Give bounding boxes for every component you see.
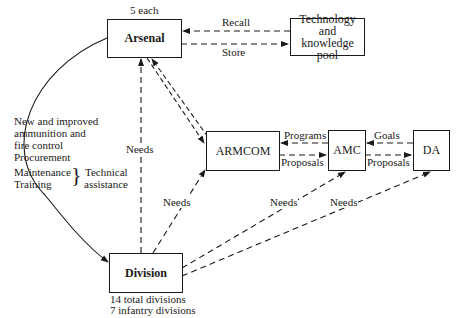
- da-label: DA: [423, 143, 440, 158]
- arsenal-count-note: 5 each: [130, 4, 158, 16]
- edge-needs-division-armcom: [153, 170, 205, 253]
- tech-pool-node[interactable]: Technology and knowledge pool: [290, 18, 365, 56]
- edge-label-needs-amc: Needs: [270, 196, 298, 208]
- edge-armcom-to-arsenal: [152, 59, 208, 137]
- edge-label-programs: Programs: [284, 129, 326, 141]
- edge-label-recall: Recall: [222, 16, 250, 28]
- edge-label-needs-da: Needs: [330, 196, 358, 208]
- edge-label-proposals-amc-da: Proposals: [367, 156, 410, 168]
- annotation-line5: Maintenance: [14, 166, 71, 178]
- amc-label: AMC: [333, 143, 360, 158]
- edge-label-needs-armcom: Needs: [163, 196, 191, 208]
- arsenal-label: Arsenal: [125, 31, 165, 46]
- edge-label-store: Store: [222, 46, 245, 58]
- amc-node[interactable]: AMC: [328, 130, 366, 171]
- edge-arsenal-to-armcom: [147, 58, 204, 143]
- arsenal-node[interactable]: Arsenal: [107, 19, 182, 58]
- armcom-label: ARMCOM: [216, 144, 271, 159]
- edge-needs-division-amc: [182, 172, 345, 268]
- edge-label-goals: Goals: [374, 129, 400, 141]
- edge-label-proposals-armcom-amc: Proposals: [281, 156, 324, 168]
- edge-label-needs-arsenal: Needs: [126, 143, 154, 155]
- annotation-line2: ammunition and: [14, 127, 86, 139]
- edge-needs-division-da: [182, 172, 430, 276]
- brace-label-assistance: assistance: [84, 178, 128, 190]
- division-node[interactable]: Division: [109, 253, 183, 293]
- division-infantry-note: 7 infantry divisions: [110, 304, 196, 316]
- brace-label-technical: Technical: [85, 166, 128, 178]
- armcom-node[interactable]: ARMCOM: [206, 131, 280, 171]
- annotation-line4: Procurement: [14, 151, 70, 163]
- annotation-line3: fire control: [14, 139, 63, 151]
- da-node[interactable]: DA: [413, 130, 450, 171]
- division-label: Division: [125, 266, 167, 281]
- annotation-line1: New and improved: [14, 115, 98, 127]
- brace-icon: }: [71, 164, 82, 186]
- annotation-line6: Training: [14, 178, 52, 190]
- tech-pool-line3: knowledge pool: [291, 37, 364, 61]
